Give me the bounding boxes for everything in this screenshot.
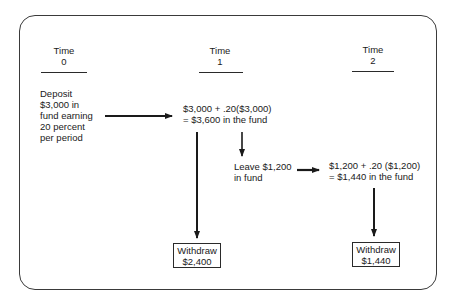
arrows-layer [0,0,454,307]
